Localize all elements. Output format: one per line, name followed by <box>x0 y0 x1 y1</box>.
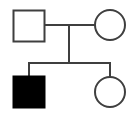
pedigree-chart <box>0 0 136 115</box>
pedigree-canvas <box>0 0 136 115</box>
individual-female-unaffected-gen2[interactable] <box>95 77 125 107</box>
individual-male-unaffected-gen1[interactable] <box>14 11 45 42</box>
individual-male-affected-gen2[interactable] <box>14 77 45 108</box>
generation-two-group <box>14 77 126 108</box>
individual-female-unaffected-gen1[interactable] <box>95 10 125 40</box>
